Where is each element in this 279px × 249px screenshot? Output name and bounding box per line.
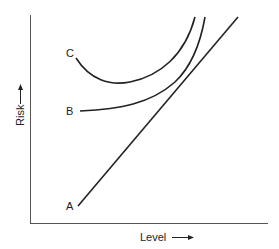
curve-c-label: C [66, 47, 74, 59]
curve-b [80, 17, 205, 111]
y-axis-arrow-icon [18, 84, 23, 104]
curve-c [76, 17, 195, 83]
x-axis-label: Level [140, 231, 166, 243]
y-axis-label: Risk [14, 104, 26, 126]
curve-a [78, 17, 238, 206]
curve-b-label: B [66, 105, 73, 117]
risk-level-chart: A B C Level Risk [0, 0, 279, 249]
curve-a-label: A [66, 200, 74, 212]
x-axis-arrow-icon [172, 235, 194, 240]
